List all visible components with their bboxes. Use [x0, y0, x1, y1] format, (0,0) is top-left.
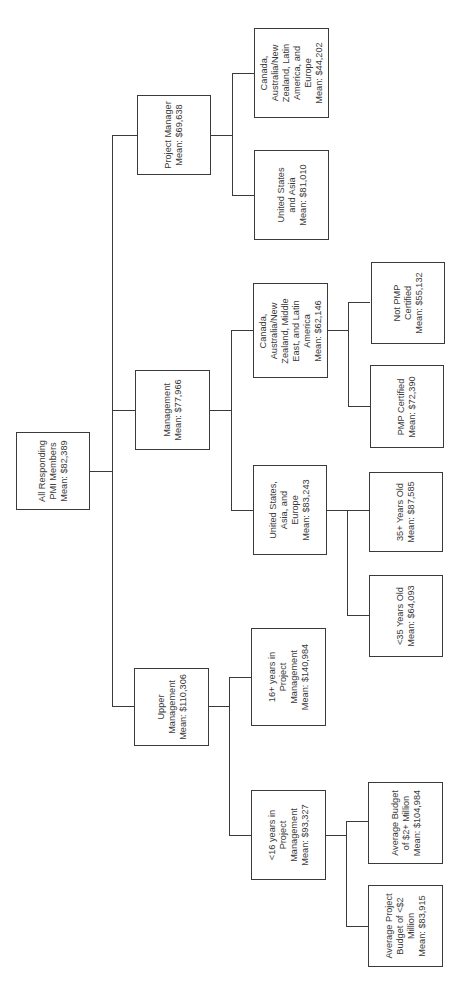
node-label: United States and Asia Mean: $81,010	[275, 164, 308, 225]
connector	[328, 330, 348, 331]
node-pm-us-asia: United States and Asia Mean: $81,010	[254, 150, 329, 240]
node-label: PMP Certified Mean: $72,390	[396, 376, 418, 437]
node-label: <35 Years Old Mean: $64,093	[395, 585, 417, 646]
node-label: Canada, Australia/New Zealand, Middle Ea…	[258, 298, 324, 363]
node-35plus-years-old: 35+ Years Old Mean: $87,585	[369, 472, 443, 552]
connector	[346, 926, 368, 927]
node-not-pmp-certified: Not PMP Certified Mean: $55,132	[371, 262, 445, 344]
connector	[346, 821, 368, 822]
connector	[347, 615, 369, 616]
connector	[346, 821, 347, 926]
node-upper-management: Upper Management Mean: $110,306	[134, 668, 209, 746]
node-all-responding: All Responding PMI Members Mean: $82,389	[16, 432, 90, 510]
connector	[231, 510, 253, 511]
connector	[348, 302, 349, 406]
connector	[210, 410, 231, 411]
node-label: Project Manager Mean: $69,638	[163, 101, 185, 168]
connector	[90, 471, 112, 472]
connector	[347, 510, 369, 511]
node-project-manager: Project Manager Mean: $69,638	[137, 95, 211, 175]
connector	[211, 135, 232, 136]
connector	[232, 73, 233, 195]
node-mgmt-us-asia-europe: United States, Asia, and Europe Mean: $8…	[253, 465, 327, 555]
node-label: Average Budget of $2+ Million Mean: $104…	[389, 790, 422, 856]
connector	[348, 406, 370, 407]
node-label: United States, Asia, and Europe Mean: $8…	[268, 479, 312, 540]
connector	[229, 677, 230, 835]
node-management: Management Mean: $77,966	[135, 370, 210, 450]
node-label: Not PMP Certified Mean: $55,132	[392, 272, 425, 333]
connector	[112, 706, 136, 707]
node-pmp-certified: PMP Certified Mean: $72,390	[370, 365, 444, 448]
node-label: Upper Management Mean: $110,306	[155, 674, 188, 740]
node-label: 16+ years in Project Management Mean: $1…	[267, 644, 311, 710]
connector	[231, 330, 253, 331]
connector	[112, 135, 137, 136]
node-under35-years-old: <35 Years Old Mean: $64,093	[369, 575, 443, 657]
node-pm-canada-latam-europe: Canada, Australia/New Zealand, Latin Ame…	[254, 28, 329, 118]
connector	[347, 510, 348, 615]
connector	[229, 677, 251, 678]
node-upper-16plus-years: 16+ years in Project Management Mean: $1…	[251, 628, 326, 726]
connector	[209, 706, 229, 707]
node-budget-under-2m: Average Project Budget of <$2 Million Me…	[368, 885, 443, 967]
connector	[229, 835, 251, 836]
connector	[232, 73, 254, 74]
node-label: Management Mean: $77,966	[162, 379, 184, 440]
node-label: All Responding PMI Members Mean: $82,389	[37, 440, 70, 502]
node-mgmt-canada-mideast-latam: Canada, Australia/New Zealand, Middle Ea…	[253, 283, 328, 378]
connector	[348, 302, 370, 303]
node-label: 35+ Years Old Mean: $87,585	[395, 481, 417, 542]
connector	[112, 135, 113, 706]
node-label: <16 years in Project Management Mean: $9…	[267, 804, 311, 865]
node-label: Canada, Australia/New Zealand, Latin Ame…	[259, 42, 325, 103]
connector	[232, 195, 254, 196]
node-label: Average Project Budget of <$2 Million Me…	[384, 893, 428, 958]
connector	[112, 410, 137, 411]
node-upper-under16-years: <16 years in Project Management Mean: $9…	[251, 790, 326, 880]
node-budget-2m-plus: Average Budget of $2+ Million Mean: $104…	[368, 782, 443, 864]
connector	[326, 835, 346, 836]
connector	[231, 330, 232, 510]
connector	[327, 510, 347, 511]
